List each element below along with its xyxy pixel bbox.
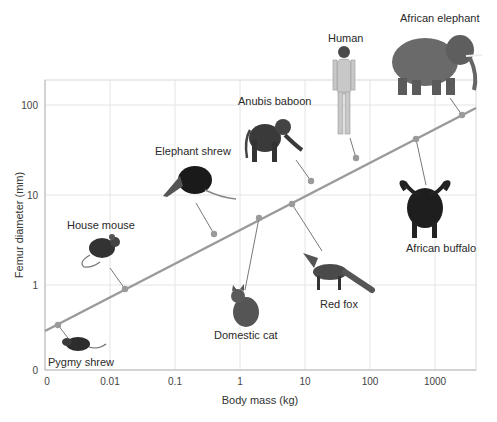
point-african-buffalo <box>413 136 419 142</box>
x-tick-0.1: 0.1 <box>168 376 182 387</box>
label-african-buffalo: African buffalo <box>406 242 476 254</box>
label-house-mouse: House mouse <box>67 219 135 231</box>
y-tick-10: 10 <box>27 190 39 201</box>
x-tick-100: 100 <box>362 376 379 387</box>
point-red-fox <box>289 201 295 207</box>
y-tick-1: 1 <box>32 280 38 291</box>
y-tick-100: 100 <box>21 100 38 111</box>
point-house-mouse <box>122 286 128 292</box>
x-tick-1000: 1000 <box>424 376 447 387</box>
label-human: Human <box>328 32 363 44</box>
label-african-elephant: African elephant <box>400 12 480 24</box>
point-elephant-shrew <box>211 231 217 237</box>
label-anubis-baboon: Anubis baboon <box>238 95 311 107</box>
x-axis-title: Body mass (kg) <box>222 394 298 406</box>
label-domestic-cat: Domestic cat <box>214 329 278 341</box>
point-anubis-baboon <box>308 178 314 184</box>
label-red-fox: Red fox <box>320 298 358 310</box>
y-tick-0: 0 <box>32 365 38 376</box>
point-pygmy-shrew <box>55 322 61 328</box>
x-tick-10: 10 <box>299 376 311 387</box>
x-tick-0.01: 0.01 <box>100 376 120 387</box>
point-domestic-cat <box>256 215 262 221</box>
label-pygmy-shrew: Pygmy shrew <box>48 356 114 368</box>
label-elephant-shrew: Elephant shrew <box>155 145 231 157</box>
x-tick-0: 0 <box>44 376 50 387</box>
point-african-elephant <box>459 112 465 118</box>
point-human <box>353 155 359 161</box>
x-tick-1: 1 <box>237 376 243 387</box>
y-axis-title: Femur diameter (mm) <box>13 172 25 278</box>
